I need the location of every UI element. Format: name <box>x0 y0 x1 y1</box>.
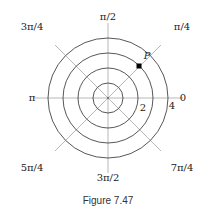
point-label: P <box>143 50 151 61</box>
angle-label: 5π/4 <box>21 162 44 173</box>
radius-label: 4 <box>169 100 175 111</box>
angle-label: 7π/4 <box>171 162 194 173</box>
radius-labels: 24 <box>140 100 175 113</box>
polar-diagram: 0π/4π/23π/4π5π/43π/27π/4 24 P Figure 7.4… <box>0 0 209 215</box>
radius-label: 2 <box>140 102 146 113</box>
angle-label: π/2 <box>100 11 116 22</box>
point-p: P <box>137 50 151 69</box>
figure-caption: Figure 7.47 <box>83 195 134 206</box>
angle-label: π <box>29 92 36 103</box>
angle-label: 0 <box>180 92 186 103</box>
origin-dot <box>107 97 109 99</box>
angle-label: 3π/2 <box>97 172 120 183</box>
point-marker <box>137 64 142 69</box>
angle-label: π/4 <box>174 21 190 32</box>
angle-label: 3π/4 <box>21 21 44 32</box>
